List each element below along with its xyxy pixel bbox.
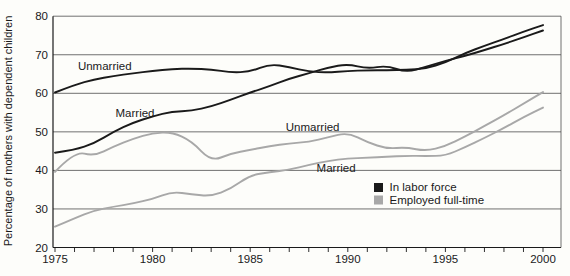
y-tick-label-40: 40 <box>35 164 48 176</box>
x-tick-label-1990: 1990 <box>335 253 361 265</box>
series-label-in-labor-force-married: Married <box>116 107 155 119</box>
x-tick-label-2000: 2000 <box>530 253 556 265</box>
x-tick-label-1980: 1980 <box>140 253 166 265</box>
x-tick-label-1995: 1995 <box>433 253 459 265</box>
chart-figure: 19751980198519901995200020304050607080Pe… <box>0 0 570 276</box>
series-label-employed-full-time-married: Married <box>317 162 356 174</box>
y-axis-title: Percentage of mothers with dependent chi… <box>2 16 14 247</box>
line-chart: 19751980198519901995200020304050607080Pe… <box>0 0 570 276</box>
legend-swatch-employed-full-time <box>374 196 383 205</box>
y-tick-label-30: 30 <box>35 203 48 215</box>
x-tick-label-1975: 1975 <box>42 253 68 265</box>
legend-label-in-labor-force: In labor force <box>390 181 457 193</box>
legend-swatch-in-labor-force <box>374 183 383 192</box>
series-label-in-labor-force-unmarried: Unmarried <box>78 60 132 72</box>
legend-label-employed-full-time: Employed full-time <box>390 194 485 206</box>
y-tick-label-70: 70 <box>35 49 48 61</box>
x-tick-label-1985: 1985 <box>237 253 263 265</box>
y-tick-label-20: 20 <box>35 242 48 254</box>
y-tick-label-50: 50 <box>35 126 48 138</box>
y-tick-label-60: 60 <box>35 87 48 99</box>
series-label-employed-full-time-unmarried: Unmarried <box>286 121 340 133</box>
y-tick-label-80: 80 <box>35 10 48 22</box>
